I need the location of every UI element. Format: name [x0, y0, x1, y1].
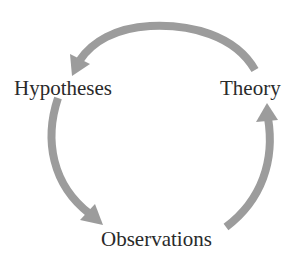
cycle-arrows	[0, 0, 296, 259]
arrow-observations-to-theory	[226, 118, 270, 227]
node-hypotheses: Hypotheses	[14, 78, 112, 99]
arrowhead-theory	[256, 103, 278, 122]
node-theory: Theory	[220, 78, 281, 99]
arrow-theory-to-hypotheses	[80, 26, 255, 70]
node-observations: Observations	[101, 229, 212, 250]
arrow-hypotheses-to-observations	[52, 98, 90, 214]
